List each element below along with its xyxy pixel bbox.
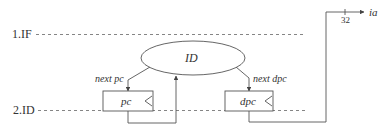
diagram-canvas <box>0 0 390 133</box>
stage-label-if: 1.IF <box>12 28 32 40</box>
pc-register-label: pc <box>121 96 131 107</box>
next-dpc-wire <box>236 67 249 91</box>
next-pc-wire <box>128 67 150 91</box>
next-dpc-label: next dpc <box>253 74 287 84</box>
ia-output-label: ia <box>369 7 378 18</box>
next-pc-label: next pc <box>95 74 124 84</box>
id-ellipse-label: ID <box>185 52 198 64</box>
bus-width-label: 32 <box>341 16 350 25</box>
pipeline-diagram: 1.IF 2.ID ID next pc next dpc pc dpc 32 … <box>0 0 390 133</box>
dpc-register-label: dpc <box>240 96 256 107</box>
stage-label-id: 2.ID <box>13 104 35 116</box>
